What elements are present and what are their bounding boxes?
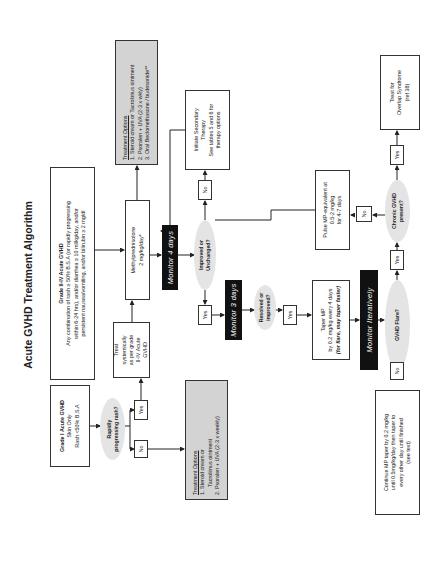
box-line: See tables 5 and 6 for (208, 104, 215, 157)
gvhd-flare-decision: GVHD Flare? (385, 280, 410, 370)
decision-text: Rapidly (106, 420, 113, 439)
box-line: Taper MP (320, 308, 327, 331)
rash-yes-label: Yes (134, 400, 148, 420)
chronic-gvhd-decision: Chronic GVHD present? (385, 180, 410, 242)
treatment-option-item: 2. Psoralen + UVA (2-3 x weekly) (214, 416, 221, 495)
box-line: Pulse MP-equivalent at (322, 182, 329, 237)
overlap-syndrome-box: Treat for Overlap Syndrome (ref 38) (380, 55, 420, 130)
treatment-option-item: 2. Psoralen + UVA (2-3 x wkly) (137, 87, 144, 160)
decision-text: Chronic GVHD (391, 193, 398, 229)
chronic-yes-label: Yes (390, 145, 404, 165)
box-line: systemically (121, 335, 128, 364)
treatment-option-item: 3. Oral Beclomethasone / budesonide** (144, 66, 151, 160)
grade2to4-box: Grade II-IV Acute GVHD Any combination o… (50, 167, 95, 380)
continue-mp-box: Continue MP taper by 0.2 mg/kg until 0.5… (375, 390, 420, 515)
flowchart-page: Acute GVHD Treatment Algorithm (0, 0, 443, 561)
box-line: Overlap Syndrome (396, 70, 403, 115)
box-line: Initiate Secondary (193, 108, 200, 151)
treatment-options-top-box: Treatment Options 1. Steroid cream or Ta… (115, 40, 158, 165)
box-line: Treat (113, 344, 120, 356)
decision-text: GVHD Flare? (394, 309, 401, 341)
arrow-secondary-to-monitor4 (161, 130, 185, 231)
grade2to4-line: within 6-24 hrs), and/or diarrhea ≥ 10 m… (73, 208, 80, 339)
treat-systemically-box: Treat systemically as per grade II-IV Ac… (113, 322, 150, 378)
monitor-iteratively-box: Monitor Iteratively (360, 270, 378, 370)
box-line: therapy options (215, 112, 222, 149)
flare-no-label: No (390, 362, 404, 380)
box-line: (ref 38) (404, 84, 411, 101)
grade1-line: Skin Only (66, 414, 73, 437)
box-line: until 0.5mg/kg/day then taper to (390, 415, 397, 491)
box-line: Therapy (200, 120, 207, 140)
box-line: (see text) (405, 441, 412, 463)
decision-text: Improved or (198, 240, 205, 270)
resolved-yes-label: Yes (283, 305, 297, 325)
grade1-heading: Grade I Acute GVHD (59, 400, 66, 452)
box-line: Treat for (389, 82, 396, 102)
taper-emphasis: (for flare, may taper faster) (335, 286, 342, 354)
grade1-box: Grade I Acute GVHD Skin Only Rash <50% B… (50, 385, 90, 467)
decision-text: improved? (265, 294, 272, 321)
decision-text: Resolved or (258, 293, 265, 323)
grade2to4-line: Any combination of rash ≥ 50% B.S.A (or … (65, 201, 72, 346)
box-line: II-IV Acute (135, 338, 142, 363)
methylprednisolone-box: Methylprednisolone 2 mg/kg/day* (125, 200, 150, 300)
grade2to4-heading: Grade II-IV Acute GVHD (58, 243, 65, 303)
box-line: GVHD (142, 342, 149, 358)
treatment-options-heading: Treatment Options (122, 116, 129, 160)
line-pulse-to-improved (215, 210, 315, 220)
grade1-line: Rash <50% B.S.A (74, 404, 81, 447)
box-line: Continue MP taper by 0.2 mg/kg (383, 414, 390, 491)
monitor-4-days-box: Monitor 4 days (162, 225, 178, 290)
improved-unchanged-decision: Improved or Unchanged? (194, 220, 216, 290)
box-line: as per grade (128, 335, 135, 365)
decision-text: progressing rash? (113, 406, 120, 452)
treatment-options-heading: Treatment Options (192, 451, 199, 495)
treatment-option-item: 1. Steroid cream or (199, 449, 206, 495)
decision-text: present? (398, 200, 405, 222)
grade2to4-line: persistent nausea/vomiting, and/or bilir… (80, 210, 87, 336)
taper-mp-box: Taper MP by 0.2 mg/kg every 4 days (for … (312, 280, 350, 360)
treatment-option-item: Tacrolimus ointment (207, 439, 214, 495)
box-line: 2 mg/kg/day* (138, 234, 145, 265)
resolved-improved-decision: Resolved or improved? (254, 285, 276, 330)
box-line: by 0.2 mg/kg every 4 days (327, 289, 334, 352)
rash-no-label: No (134, 440, 148, 458)
treatment-options-grade1-box: Treatment Options 1. Steroid cream or Ta… (185, 380, 228, 500)
box-line: for 4-7 days (336, 196, 343, 224)
decision-text: Unchanged? (205, 239, 212, 270)
secondary-therapy-box: Initiate Secondary Therapy See tables 5 … (185, 90, 230, 170)
box-line: every other day until finished (398, 418, 405, 487)
improved-yes-label: Yes (198, 305, 212, 325)
chronic-no-label: No (356, 206, 372, 222)
rapid-rash-decision: Rapidly progressing rash? (100, 398, 125, 460)
box-line: Methylprednisolone (130, 227, 137, 274)
box-line: 0.5-2 mg/kg (329, 196, 336, 224)
pulse-mp-box: Pulse MP-equivalent at 0.5-2 mg/kg for 4… (315, 170, 350, 250)
flare-yes-label: Yes (390, 250, 404, 270)
monitor-3-days-box: Monitor 3 days (225, 280, 242, 340)
improved-no-label: No (198, 180, 212, 200)
treatment-option-item: 1. Steroid cream or Tacrolimus ointment (129, 65, 136, 160)
